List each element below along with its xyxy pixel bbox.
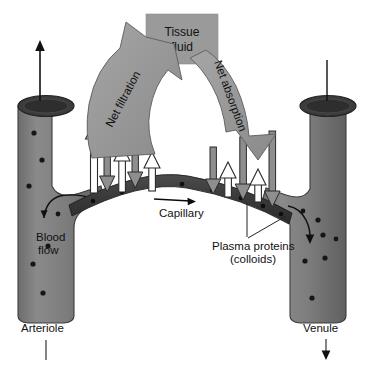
arteriole-label: Arteriole [21, 322, 64, 334]
blood-flow-label-line1: Blood [36, 231, 65, 243]
plasma-proteins-label-line1: Plasma proteins [212, 240, 295, 252]
venule-label: Venule [303, 322, 338, 334]
capillary-label: Capillary [159, 207, 204, 219]
plasma-proteins-label-line2: (colloids) [230, 253, 276, 265]
diagram-canvas: Tissue fluid Net filtration Net absorpti… [0, 0, 365, 366]
blood-flow-label-line2: flow [38, 244, 59, 256]
tissue-fluid-label-line1: Tissue [165, 25, 200, 39]
